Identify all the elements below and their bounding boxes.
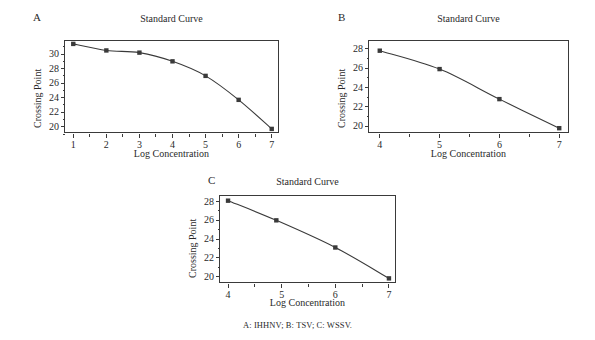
standard-curve-plot [65,41,280,134]
panel-a-letter: A [33,11,41,23]
y-tick-label: 26 [188,214,214,225]
panel-b-letter: B [338,11,346,23]
y-tick-label: 24 [188,233,214,244]
curve-line [73,44,271,129]
standard-curve-plot [369,41,570,134]
x-tick-mark [439,134,440,138]
x-minor-tick-mark [362,284,363,287]
data-point-marker [104,48,108,52]
x-tick-label: 3 [129,139,149,150]
data-point-marker [226,198,230,202]
x-tick-label: 4 [370,139,390,150]
y-tick-label: 20 [33,121,59,132]
x-tick-label: 4 [218,289,238,300]
x-tick-label: 7 [379,289,399,300]
y-tick-label: 28 [33,63,59,74]
x-tick-mark [106,134,107,138]
y-tick-label: 30 [33,48,59,59]
x-tick-label: 5 [272,289,292,300]
panel-b-title: Standard Curve [368,13,569,24]
x-tick-label: 5 [196,139,216,150]
panel-a-title: Standard Curve [64,13,279,24]
x-tick-label: 5 [430,139,450,150]
data-point-marker [437,67,441,71]
panel-b-plot-area: 20222426284567 [368,40,569,133]
panel-c-x-axis-label: Log Concentration [219,297,396,308]
x-tick-mark [499,134,500,138]
x-tick-label: 1 [63,139,83,150]
y-tick-label: 28 [188,196,214,207]
panel-b-x-axis-label: Log Concentration [368,148,569,159]
x-tick-label: 6 [325,289,345,300]
x-minor-tick-mark [255,134,256,137]
y-tick-label: 20 [337,120,363,131]
data-point-marker [71,42,75,46]
x-tick-label: 2 [96,139,116,150]
x-tick-label: 4 [163,139,183,150]
x-minor-tick-mark [122,134,123,137]
x-tick-mark [388,284,389,288]
panel-c-y-axis-label: Crossing Point [187,219,198,278]
y-tick-label: 26 [337,62,363,73]
x-tick-mark [139,134,140,138]
x-tick-mark [238,134,239,138]
x-tick-mark [73,134,74,138]
x-minor-tick-mark [254,284,255,287]
x-tick-mark [335,284,336,288]
data-point-marker [274,218,278,222]
y-tick-label: 24 [33,92,59,103]
x-tick-mark [205,134,206,138]
figure-standard-curves: A Standard Curve Crossing Point Log Conc… [0,0,595,340]
x-tick-label: 6 [489,139,509,150]
y-tick-label: 20 [188,271,214,282]
data-point-marker [137,50,141,54]
data-point-marker [236,98,240,102]
data-point-marker [387,276,391,280]
figure-caption: A: IHHNV; B: TSV; C: WSSV. [0,320,595,330]
y-tick-label: 22 [33,106,59,117]
data-point-marker [378,48,382,52]
x-minor-tick-mark [89,134,90,137]
data-point-marker [557,126,561,130]
x-tick-mark [271,134,272,138]
data-point-marker [497,97,501,101]
x-minor-tick-mark [529,134,530,137]
y-tick-label: 28 [337,43,363,54]
y-tick-label: 26 [33,77,59,88]
data-point-marker [203,74,207,78]
y-tick-label: 22 [188,252,214,263]
x-tick-mark [559,134,560,138]
x-tick-label: 7 [549,139,569,150]
data-point-marker [270,127,274,131]
panel-c-plot-area: 20222426284567 [219,195,396,283]
y-tick-label: 24 [337,82,363,93]
x-tick-mark [172,134,173,138]
x-tick-label: 7 [262,139,282,150]
panel-a-plot-area: 2022242628301234567 [64,40,279,133]
x-tick-mark [228,284,229,288]
standard-curve-plot [220,196,397,284]
y-tick-label: 22 [337,101,363,112]
x-minor-tick-mark [155,134,156,137]
curve-line [380,51,559,129]
panel-c-letter: C [208,174,216,186]
x-tick-mark [379,134,380,138]
panel-b-y-axis-label: Crossing Point [336,69,347,128]
panel-c-title: Standard Curve [219,176,396,187]
x-tick-label: 6 [229,139,249,150]
x-minor-tick-mark [308,284,309,287]
x-minor-tick-mark [189,134,190,137]
x-minor-tick-mark [409,134,410,137]
x-minor-tick-mark [222,134,223,137]
x-tick-mark [281,284,282,288]
data-point-marker [333,245,337,249]
x-minor-tick-mark [469,134,470,137]
curve-line [228,201,389,279]
data-point-marker [170,59,174,63]
